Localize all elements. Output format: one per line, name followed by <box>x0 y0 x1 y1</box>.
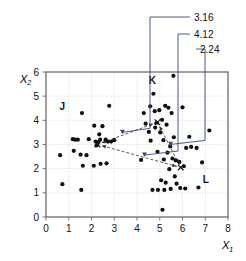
data-point <box>84 153 88 157</box>
chart-canvas: 0123456780123456X2X1JKL3.164.122.24 <box>0 0 246 261</box>
data-point <box>184 146 188 150</box>
scatter-plot-figure: 0123456780123456X2X1JKL3.164.122.24 <box>0 0 246 261</box>
data-point <box>80 111 84 115</box>
annotation-leader-line <box>196 49 205 140</box>
data-point <box>158 130 162 134</box>
data-point <box>81 164 85 168</box>
data-point <box>98 138 102 142</box>
data-point <box>153 109 157 113</box>
data-point <box>92 164 96 168</box>
data-point <box>139 158 143 162</box>
data-point <box>166 106 170 110</box>
data-point <box>58 153 62 157</box>
data-point <box>167 167 171 171</box>
data-point <box>178 186 182 190</box>
annotation-leader-tail <box>145 151 178 155</box>
x-tick-label: 1 <box>66 223 72 234</box>
data-point <box>177 160 181 164</box>
y-tick-label: 0 <box>33 212 39 223</box>
data-point <box>160 208 164 212</box>
data-point <box>78 153 82 157</box>
x-tick-label: 5 <box>157 223 163 234</box>
y-tick-label: 4 <box>33 115 39 126</box>
y-tick-label: 6 <box>33 67 39 78</box>
x-tick-label: 3 <box>111 223 117 234</box>
data-point <box>200 160 204 164</box>
y-tick-label: 1 <box>33 187 39 198</box>
data-point <box>189 145 193 149</box>
data-point <box>150 188 154 192</box>
data-point <box>107 104 111 108</box>
data-point <box>169 187 173 191</box>
y-tick-label: 2 <box>33 163 39 174</box>
data-point <box>97 132 101 136</box>
x-tick-label: 7 <box>202 223 208 234</box>
data-point <box>104 161 108 165</box>
data-point <box>171 74 175 78</box>
data-point <box>169 111 173 115</box>
x-tick-label: 2 <box>89 223 95 234</box>
data-point <box>187 135 191 139</box>
data-point <box>153 125 157 129</box>
data-point <box>112 138 116 142</box>
annotation-label: 2.24 <box>200 44 220 55</box>
data-point <box>87 137 91 141</box>
data-point <box>174 182 178 186</box>
data-point <box>151 92 155 96</box>
data-point <box>161 138 165 142</box>
data-point <box>156 188 160 192</box>
data-point <box>195 146 199 150</box>
y-tick-label: 5 <box>33 91 39 102</box>
data-point <box>196 185 200 189</box>
data-point <box>172 135 176 139</box>
data-point <box>144 122 148 126</box>
data-point <box>174 158 178 162</box>
data-point <box>183 186 187 190</box>
data-point <box>162 188 166 192</box>
y-axis-label: X2 <box>19 73 31 87</box>
data-point <box>164 123 168 127</box>
annotation-leader-tail <box>122 128 150 132</box>
data-point <box>159 178 163 182</box>
annotation-leader-tail <box>171 140 205 144</box>
data-point <box>100 124 104 128</box>
x-axis-label: X1 <box>221 239 233 253</box>
data-point <box>207 128 211 132</box>
annotation-label: 4.12 <box>194 29 214 40</box>
x-tick-label: 4 <box>134 223 140 234</box>
data-point <box>60 182 64 186</box>
cluster-label-l: L <box>203 174 209 185</box>
data-point <box>142 111 146 115</box>
data-point <box>173 174 177 178</box>
x-tick-label: 6 <box>180 223 186 234</box>
data-point <box>149 139 153 143</box>
data-point <box>157 108 161 112</box>
cluster-label-j: J <box>60 101 66 112</box>
x-tick-label: 8 <box>225 223 231 234</box>
data-point <box>79 188 83 192</box>
data-point <box>99 162 103 166</box>
data-point <box>76 138 80 142</box>
connector-arrowhead <box>149 124 153 127</box>
y-tick-label: 3 <box>33 139 39 150</box>
data-point <box>92 124 96 128</box>
x-tick-label: 0 <box>43 223 49 234</box>
data-point <box>72 149 76 153</box>
centroid-connector <box>97 145 180 168</box>
data-point <box>162 157 166 161</box>
data-point <box>180 105 184 109</box>
annotation-leader-line <box>178 34 190 151</box>
connector-arrowhead <box>160 126 164 130</box>
data-point <box>164 181 168 185</box>
data-point <box>147 130 151 134</box>
annotation-label: 3.16 <box>194 12 214 23</box>
